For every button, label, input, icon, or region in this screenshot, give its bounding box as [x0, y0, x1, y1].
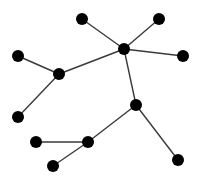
- edge-n4-n3: [124, 49, 183, 56]
- node-n10: [82, 136, 94, 148]
- edge-n6-n3: [59, 49, 124, 74]
- node-n3: [118, 43, 130, 55]
- node-n6: [53, 68, 65, 80]
- edge-n3-n8: [124, 49, 136, 105]
- node-n7: [12, 111, 24, 123]
- node-n4: [177, 50, 189, 62]
- node-n2: [153, 13, 165, 25]
- node-n1: [76, 13, 88, 25]
- edge-n7-n6: [18, 74, 59, 117]
- edge-n5-n6: [18, 56, 59, 74]
- graph-canvas: [0, 0, 199, 179]
- edge-n2-n3: [124, 19, 159, 49]
- edge-n8-n12: [136, 105, 178, 160]
- edge-n11-n10: [53, 142, 88, 166]
- node-n5: [12, 50, 24, 62]
- edge-n1-n3: [82, 19, 124, 49]
- node-n9: [30, 136, 42, 148]
- nodes-layer: [12, 13, 189, 172]
- node-n12: [172, 154, 184, 166]
- edges-layer: [18, 19, 183, 166]
- node-n8: [130, 99, 142, 111]
- node-n11: [47, 160, 59, 172]
- edge-n8-n10: [88, 105, 136, 142]
